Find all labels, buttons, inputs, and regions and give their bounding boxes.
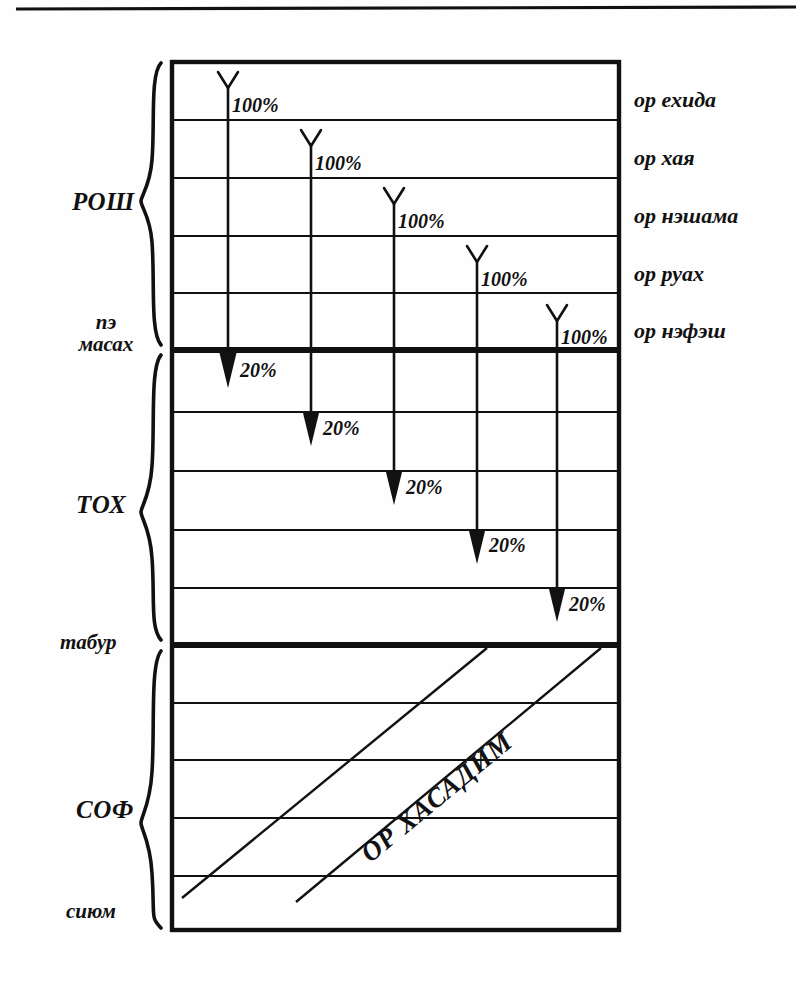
value-label-bottom-3: 20% [406,477,443,497]
boundary-label-pe-masax-line1: пэ [72,311,140,333]
arrowhead-filled-2 [303,411,320,446]
value-label-bottom-5: 20% [569,594,606,614]
right-label-or-haya: ор хая [634,147,695,169]
value-label-top-3: 100% [398,211,445,231]
arrowhead-open-1 [218,72,238,88]
arrowhead-open-5 [547,305,567,321]
value-label-top-4: 100% [481,269,528,289]
brace-rosh [141,63,161,345]
boundary-label-pe-masax: пэ масах [72,311,140,355]
right-label-or-yehida: ор ехида [634,89,716,111]
arrowhead-open-2 [301,130,321,146]
right-label-or-ruach: ор руах [634,263,704,285]
boundary-label-tabur: табур [60,632,117,653]
page-top-rule [16,7,796,9]
arrowhead-open-3 [384,188,404,204]
arrowhead-filled-5 [549,587,566,622]
arrowhead-filled-3 [386,470,403,505]
right-label-or-nefesh: ор нэфэш [634,320,726,342]
value-label-bottom-4: 20% [489,535,526,555]
value-label-top-5: 100% [561,327,608,347]
or-xasadim-band [182,648,601,902]
arrowhead-open-4 [467,246,487,262]
group-label-rosh: РОШ [72,189,135,214]
value-label-bottom-2: 20% [323,418,360,438]
group-label-sof: СОФ [76,797,134,822]
brace-sof [141,651,161,928]
group-label-tox: ТОХ [76,492,126,517]
diagram-canvas: РОШ ТОХ СОФ пэ масах табур сиюм ор ехида… [0,0,812,997]
value-label-top-2: 100% [315,153,362,173]
brace-tox [141,355,161,640]
boundary-label-pe-masax-line2: масах [72,333,140,355]
arrowhead-filled-4 [469,529,486,564]
value-label-bottom-1: 20% [240,360,277,380]
arrowhead-filled-1 [220,353,237,388]
value-label-top-1: 100% [232,95,279,115]
boundary-label-sium: сиюм [66,901,116,922]
right-label-or-neshama: ор нэшама [634,205,738,227]
